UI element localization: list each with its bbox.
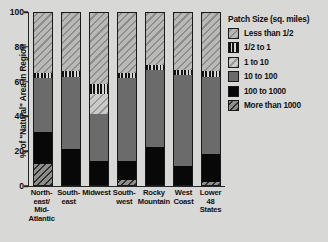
bar-segment	[90, 84, 109, 94]
bar-segment	[202, 13, 221, 71]
bar-segment	[146, 70, 165, 147]
bar-segment	[118, 13, 137, 73]
x-axis-label: South-east	[55, 189, 82, 223]
bar-segment	[202, 182, 221, 185]
bar-segment	[34, 132, 53, 165]
legend-label: Less than 1/2	[244, 29, 293, 38]
stacked-bar	[145, 12, 166, 186]
x-axis-label: Midwest	[82, 189, 111, 223]
bar-segment	[118, 161, 137, 180]
legend-swatch	[228, 71, 239, 82]
legend: Patch Size (sq. miles) Less than 1/21/2 …	[228, 14, 328, 114]
x-axis-label: RockyMountain	[138, 189, 170, 223]
legend-swatch	[228, 57, 239, 68]
legend-item: 10 to 100	[228, 71, 328, 82]
bar-segment	[174, 166, 193, 185]
bar-column	[197, 12, 225, 186]
bar-column	[141, 12, 169, 186]
stacked-bar-chart: % of "Natural" Area in Region 0204060801…	[0, 0, 328, 242]
bar-group	[29, 12, 225, 186]
x-axis-label: Lower48 States	[197, 189, 224, 223]
bar-column	[113, 12, 141, 186]
stacked-bar	[201, 12, 222, 186]
x-axis-label: South-west	[111, 189, 138, 223]
y-tick-label: 60	[14, 77, 24, 87]
bar-column	[85, 12, 113, 186]
y-tick-label: 40	[14, 111, 24, 121]
bar-column	[57, 12, 85, 186]
y-tick-label: 20	[14, 146, 24, 156]
legend-label: 1 to 10	[244, 58, 269, 67]
y-tick-label: 100	[10, 7, 24, 17]
stacked-bar	[173, 12, 194, 186]
bar-segment	[118, 78, 137, 161]
y-tick-label: 80	[14, 42, 24, 52]
legend-label: 1/2 to 1	[244, 43, 271, 52]
legend-swatch	[228, 42, 239, 53]
bar-column	[169, 12, 197, 186]
bar-segment	[146, 147, 165, 185]
bar-segment	[118, 180, 137, 185]
bar-segment	[34, 164, 53, 185]
bar-segment	[202, 77, 221, 154]
legend-item: 1/2 to 1	[228, 42, 328, 53]
bar-segment	[90, 114, 109, 160]
x-axis-labels: North-east/Mid-AtlanticSouth-eastMidwest…	[28, 189, 224, 223]
bar-segment	[174, 75, 193, 166]
stacked-bar	[89, 12, 110, 186]
legend-item: 100 to 1000	[228, 86, 328, 97]
legend-swatch	[228, 28, 239, 39]
bar-segment	[202, 154, 221, 182]
legend-item: 1 to 10	[228, 57, 328, 68]
bar-segment	[174, 13, 193, 70]
legend-swatch	[228, 86, 239, 97]
plot-area	[28, 12, 225, 187]
bar-column	[29, 12, 57, 186]
y-axis-ticks: 020406080100	[0, 0, 28, 186]
legend-title: Patch Size (sq. miles)	[228, 14, 328, 24]
bar-segment	[62, 149, 81, 185]
bar-segment	[90, 94, 109, 115]
x-axis-label: North-east/Mid-Atlantic	[28, 189, 55, 223]
legend-swatch	[228, 100, 239, 111]
stacked-bar	[61, 12, 82, 186]
stacked-bar	[117, 12, 138, 186]
bar-segment	[62, 77, 81, 149]
legend-item: More than 1000	[228, 100, 328, 111]
bar-segment	[90, 13, 109, 84]
legend-item: Less than 1/2	[228, 28, 328, 39]
bar-segment	[62, 13, 81, 71]
bar-segment	[146, 13, 165, 65]
legend-label: 10 to 100	[244, 72, 277, 81]
legend-items: Less than 1/21/2 to 11 to 1010 to 100100…	[228, 28, 328, 111]
bar-segment	[34, 13, 53, 73]
legend-label: More than 1000	[244, 101, 301, 110]
bar-segment	[34, 78, 53, 131]
bar-segment	[90, 161, 109, 185]
legend-label: 100 to 1000	[244, 87, 286, 96]
x-axis-label: WestCoast	[170, 189, 197, 223]
stacked-bar	[33, 12, 54, 186]
